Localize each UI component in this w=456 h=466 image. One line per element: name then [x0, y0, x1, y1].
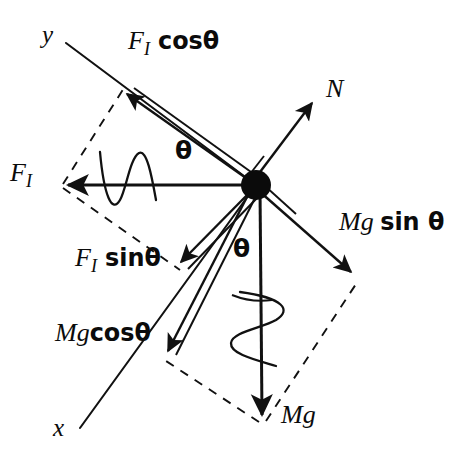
- vector-label-FI-cos-theta-base: F: [128, 26, 144, 55]
- x-axis-line: [80, 185, 256, 428]
- angle-label-theta-upper: θ: [175, 138, 192, 163]
- vector-label-Mg: Mg: [281, 402, 316, 428]
- vector-label-FI-subscript: I: [26, 171, 32, 191]
- vector-FI-cos-theta-shaft-b: [134, 88, 258, 177]
- vector-label-FI-cos-theta: FI cosθ: [128, 28, 219, 58]
- vector-Mg-sin-theta-shaft-a: [259, 191, 351, 272]
- dashed-fi-parallelogram-upper: [63, 88, 124, 184]
- vector-Mg-sin-theta: [259, 186, 351, 272]
- vector-label-FI-sin-theta: FI sinθ: [75, 245, 161, 275]
- vector-label-FI-sin-theta-base: F: [75, 243, 91, 272]
- vector-N: [250, 103, 312, 180]
- vector-label-FI-base: F: [10, 158, 26, 187]
- vector-Mg-cos-theta: [168, 193, 256, 355]
- vector-Mg-cos-theta-shaft-a: [168, 193, 249, 351]
- wave-on-Mg-icon: [231, 292, 284, 366]
- vector-N-shaft-a: [254, 103, 312, 180]
- vector-label-N: N: [326, 76, 343, 102]
- y-axis-label: y: [42, 22, 53, 47]
- vector-label-FI-sin-theta-tail: sinθ: [105, 244, 161, 272]
- vector-label-Mg-sin-theta: Mg sin θ: [339, 209, 444, 235]
- vector-label-Mg-cos-theta: Mgcosθ: [55, 320, 151, 346]
- vector-label-FI: FI: [10, 160, 32, 190]
- dashed-mg-parallelogram-left: [163, 359, 259, 422]
- free-body-diagram: y x FI FI cosθ FI sinθ N Mg sin θ Mgcosθ…: [0, 0, 456, 466]
- angle-label-theta-lower: θ: [233, 236, 250, 261]
- x-axis-label: x: [53, 415, 64, 440]
- vector-label-FI-cos-theta-tail: cosθ: [158, 27, 219, 55]
- wave-on-FI-icon: [100, 152, 156, 205]
- particle-mass-dot: [241, 170, 271, 200]
- vector-Mg-shaft: [260, 190, 262, 415]
